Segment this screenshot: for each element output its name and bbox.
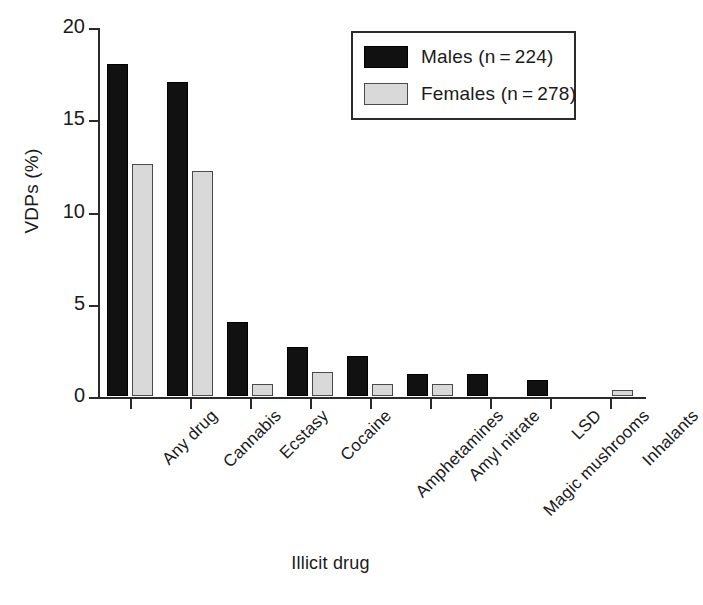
x-tick-mark (550, 399, 552, 409)
x-axis-title: Illicit drug (0, 553, 661, 574)
y-tick-mark (89, 397, 98, 399)
bar-male (107, 64, 128, 396)
x-category-label: Ecstasy (276, 406, 333, 463)
bar-male (227, 322, 248, 396)
x-axis-line (98, 397, 646, 399)
y-tick-label: 5 (45, 292, 85, 315)
x-category-label: LSD (568, 406, 606, 444)
x-category-label: Cocaine (337, 406, 396, 465)
y-tick-label: 0 (45, 384, 85, 407)
legend-swatch-females (364, 83, 408, 105)
bar-female (132, 164, 153, 396)
y-tick-mark (89, 28, 98, 30)
x-tick-mark (310, 399, 312, 409)
bar-female (252, 384, 273, 396)
bar-female (372, 384, 393, 396)
bar-male (527, 380, 548, 396)
bar-male (347, 356, 368, 396)
bar-male (167, 82, 188, 396)
legend-label-males: Males (n = 224) (421, 46, 554, 68)
y-axis-title: VDPs (%) (21, 111, 43, 271)
y-tick-mark (89, 305, 98, 307)
x-tick-mark (130, 399, 132, 409)
y-tick-label: 20 (45, 15, 85, 38)
bar-male (407, 374, 428, 396)
bar-female (192, 171, 213, 396)
y-axis-line (98, 28, 100, 399)
bar-female (312, 372, 333, 396)
legend-item-females: Females (n = 278) (364, 81, 576, 107)
x-tick-mark (430, 399, 432, 409)
bar-female (612, 390, 633, 396)
bar-male (287, 347, 308, 396)
x-tick-mark (370, 399, 372, 409)
y-tick-label: 10 (45, 200, 85, 223)
legend-item-males: Males (n = 224) (364, 44, 554, 70)
x-category-label: Any drug (158, 406, 221, 469)
x-tick-mark (610, 399, 612, 409)
bar-female (432, 384, 453, 396)
legend: Males (n = 224) Females (n = 278) (351, 31, 576, 120)
y-tick-mark (89, 120, 98, 122)
x-category-label: Cannabis (220, 406, 286, 472)
bar-male (467, 374, 488, 396)
y-tick-mark (89, 213, 98, 215)
x-tick-mark (250, 399, 252, 409)
x-tick-mark (190, 399, 192, 409)
legend-swatch-males (364, 46, 408, 68)
y-tick-label: 15 (45, 107, 85, 130)
legend-label-females: Females (n = 278) (421, 83, 576, 105)
